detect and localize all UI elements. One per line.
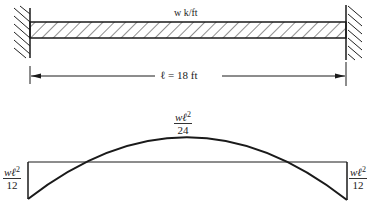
right-end-moment-label: wℓ2 12 bbox=[349, 166, 367, 191]
midspan-moment-label: wℓ2 24 bbox=[174, 111, 192, 136]
left-fixed-support bbox=[14, 6, 30, 58]
span-label: ℓ = 18 ft bbox=[158, 69, 199, 81]
right-fixed-support bbox=[346, 5, 362, 60]
moment-curve bbox=[28, 137, 347, 200]
moment-diagram bbox=[28, 137, 347, 200]
load-label: w k/ft bbox=[174, 7, 198, 18]
beam bbox=[30, 22, 346, 38]
fixed-beam-diagram bbox=[0, 0, 374, 211]
arrow-left-icon bbox=[31, 74, 41, 79]
arrow-right-icon bbox=[335, 74, 345, 79]
left-end-moment-label: wℓ2 12 bbox=[3, 166, 21, 191]
